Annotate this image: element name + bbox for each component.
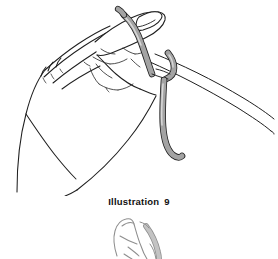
partial-yarn: [146, 226, 159, 259]
finger-fold-marks: [43, 69, 63, 83]
main-illustration: [0, 0, 278, 196]
main-illustration-drawing: [0, 0, 278, 196]
figure-caption: Illustration9: [0, 196, 278, 207]
yarn-tail: [162, 80, 182, 157]
figure-caption-number: 9: [164, 196, 169, 207]
illustration-page: Illustration9: [0, 0, 278, 259]
partial-hand-outline: [114, 219, 147, 259]
yarn-loop-over-hook: [166, 53, 174, 79]
secondary-illustration: [0, 214, 278, 259]
yarn-free-end: [118, 9, 124, 15]
figure-caption-label: Illustration: [108, 196, 159, 207]
crochet-hook: [150, 54, 274, 134]
secondary-illustration-drawing: [0, 214, 278, 259]
